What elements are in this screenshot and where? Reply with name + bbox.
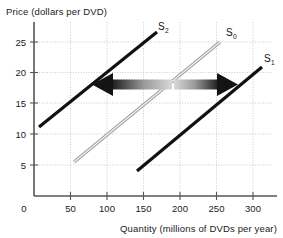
chart-canvas: S 2 S 0 S 1 25 20 15 10 5 0 50 100 150 2… <box>0 0 283 238</box>
y-axis-title: Price (dollars per DVD) <box>6 6 107 17</box>
curve-label-s2-subscript: 2 <box>165 27 169 34</box>
curve-label-s2-letter: S <box>158 21 165 32</box>
grid-lines <box>34 22 272 196</box>
xtick-label-250: 250 <box>209 203 225 214</box>
curve-label-s2: S 2 <box>158 21 169 34</box>
ytick-label-15: 15 <box>15 98 26 109</box>
x-axis-title: Quantity (millions of DVDs per year) <box>120 223 277 234</box>
ytick-label-25: 25 <box>15 37 26 48</box>
xtick-label-50: 50 <box>65 203 76 214</box>
curve-s0-inner <box>74 42 220 162</box>
ytick-label-20: 20 <box>15 67 26 78</box>
xtick-label-100: 100 <box>99 203 115 214</box>
xtick-label-300: 300 <box>245 203 261 214</box>
curve-label-s0: S 0 <box>226 27 237 40</box>
rightward-shift-arrow <box>174 73 238 96</box>
ytick-label-5: 5 <box>21 160 26 171</box>
ytick-label-10: 10 <box>15 129 26 140</box>
y-tick-labels: 25 20 15 10 5 <box>15 37 26 171</box>
curve-s0 <box>74 42 220 162</box>
xtick-label-150: 150 <box>136 203 152 214</box>
right-arrow-head <box>217 73 238 96</box>
curve-label-s0-letter: S <box>226 27 233 38</box>
curve-label-s1-subscript: 1 <box>271 59 275 66</box>
left-arrow-shaft <box>110 80 172 90</box>
curve-label-s0-subscript: 0 <box>233 33 237 40</box>
curve-label-s1: S 1 <box>264 53 275 66</box>
x-tick-labels: 50 100 150 200 250 300 <box>65 203 261 214</box>
origin-label: 0 <box>21 203 26 214</box>
right-arrow-shaft <box>174 80 220 90</box>
xtick-label-200: 200 <box>172 203 188 214</box>
supply-shift-chart: S 2 S 0 S 1 25 20 15 10 5 0 50 100 150 2… <box>0 0 283 238</box>
curve-label-s1-letter: S <box>264 53 271 64</box>
axes <box>30 22 277 200</box>
